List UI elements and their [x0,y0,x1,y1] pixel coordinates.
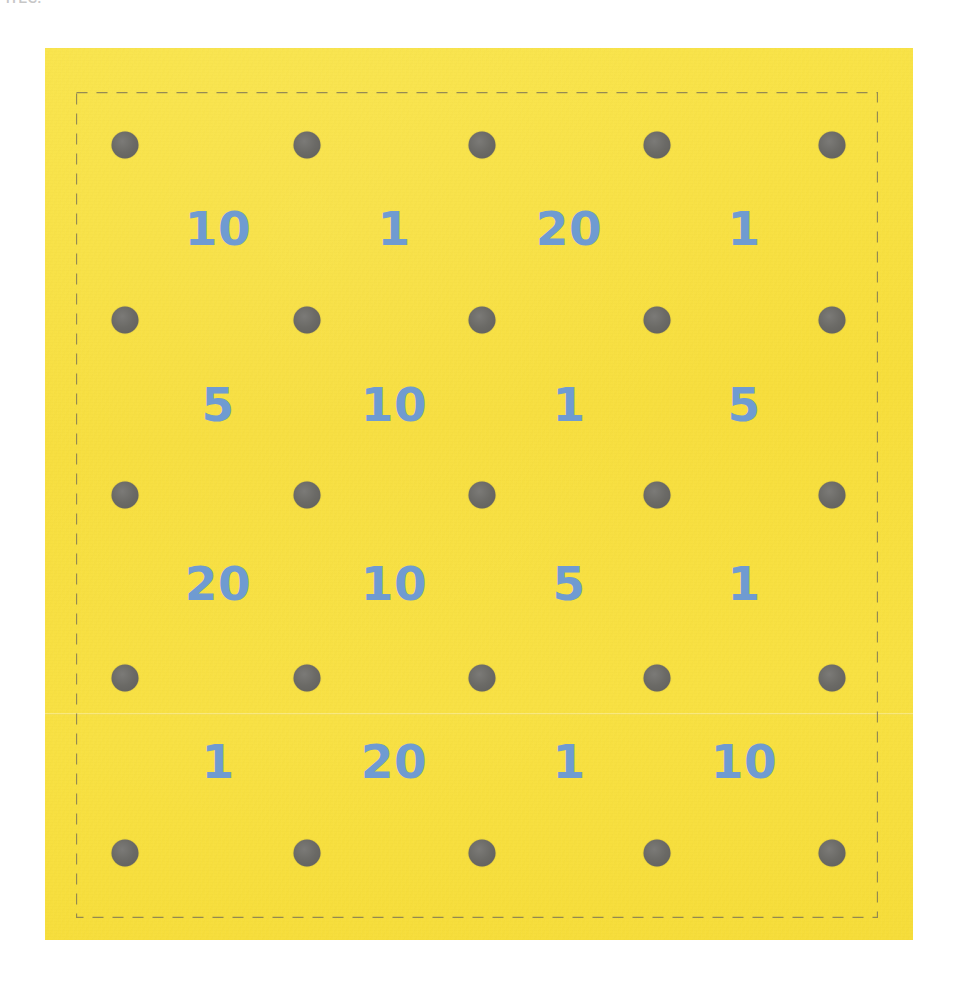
top-edge-text-artifact: ITEC. [6,0,58,5]
number-grid: 10120151015201051120110 [45,48,913,940]
number-r3-c1: 20 [185,560,251,607]
number-r2-c1: 5 [201,381,234,428]
number-r4-c1: 1 [201,738,234,785]
number-r1-c2: 1 [377,205,410,252]
number-r4-c2: 20 [361,738,427,785]
punch-card: 10120151015201051120110 [45,48,913,940]
number-r1-c3: 20 [536,205,602,252]
number-r3-c3: 5 [552,560,585,607]
number-r2-c3: 1 [552,381,585,428]
number-r3-c4: 1 [727,560,760,607]
number-r2-c2: 10 [361,381,427,428]
number-r2-c4: 5 [727,381,760,428]
number-r1-c4: 1 [727,205,760,252]
number-r4-c4: 10 [711,738,777,785]
number-r4-c3: 1 [552,738,585,785]
number-r3-c2: 10 [361,560,427,607]
number-r1-c1: 10 [185,205,251,252]
